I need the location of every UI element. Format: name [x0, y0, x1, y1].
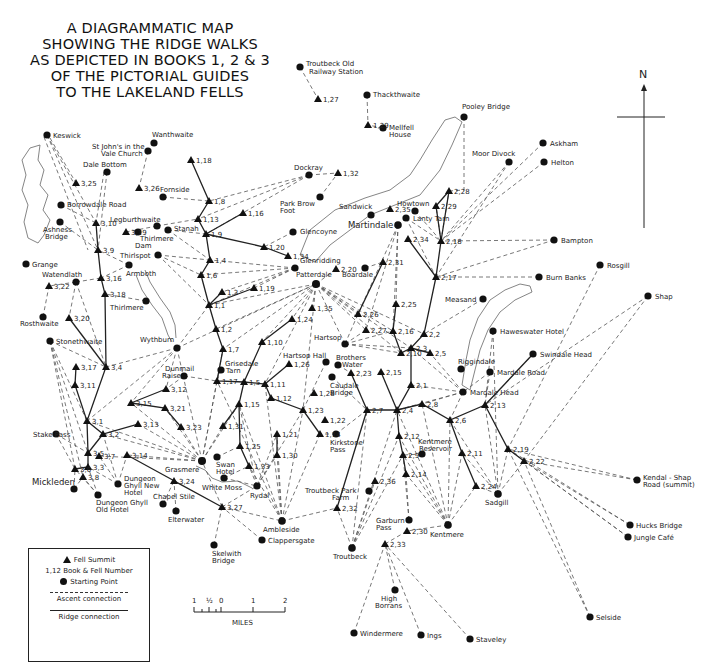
fell-summit-triangle-icon[interactable]: [310, 389, 318, 396]
start-burn-banks[interactable]: [535, 273, 542, 280]
start-caudale-bridge[interactable]: [328, 373, 335, 380]
fell-summit-triangle-icon[interactable]: [404, 235, 412, 242]
fell-summit-triangle-icon[interactable]: [72, 363, 80, 370]
start-brothers-water[interactable]: [334, 361, 341, 368]
fell-summit-triangle-icon[interactable]: [219, 345, 227, 352]
start-grisedale-tarn[interactable]: [217, 366, 224, 373]
fell-summit-triangle-icon[interactable]: [333, 504, 341, 511]
start-skelwith-bridge[interactable]: [210, 541, 217, 548]
start-haweswater-hotel[interactable]: [489, 327, 496, 334]
fell-summit-triangle-icon[interactable]: [94, 246, 102, 253]
start-park-brow-foot[interactable]: [316, 193, 323, 200]
start-swan-hotel[interactable]: [213, 453, 220, 460]
start-swindale-head[interactable]: [529, 350, 536, 357]
fell-summit-triangle-icon[interactable]: [381, 540, 389, 547]
fell-summit-triangle-icon[interactable]: [123, 451, 131, 458]
start-borrowdale-road[interactable]: [57, 201, 64, 208]
fell-summit-triangle-icon[interactable]: [334, 169, 342, 176]
start-st-johns[interactable]: [144, 147, 151, 154]
fell-summit-triangle-icon[interactable]: [395, 432, 403, 439]
fell-summit-triangle-icon[interactable]: [273, 451, 281, 458]
fell-summit-triangle-icon[interactable]: [389, 327, 397, 334]
start-ambleside[interactable]: [278, 517, 286, 525]
start-high-borrans[interactable]: [391, 586, 398, 593]
fell-summit-triangle-icon[interactable]: [72, 179, 80, 186]
start-mardale-head[interactable]: [459, 388, 466, 395]
fell-summit-triangle-icon[interactable]: [288, 315, 296, 322]
fell-summit-triangle-icon[interactable]: [364, 121, 372, 128]
fell-summit-triangle-icon[interactable]: [377, 368, 385, 375]
start-sandwick[interactable]: [367, 211, 374, 218]
start-wanthwaite[interactable]: [150, 139, 157, 146]
fell-summit-triangle-icon[interactable]: [420, 330, 428, 337]
fell-summit-triangle-icon[interactable]: [418, 400, 426, 407]
start-kendal-shap-road[interactable]: [633, 476, 640, 483]
start-helton[interactable]: [540, 158, 547, 165]
start-grange[interactable]: [22, 260, 29, 267]
start-hartsop[interactable]: [341, 340, 348, 347]
start-selside[interactable]: [586, 613, 593, 620]
fell-summit-triangle-icon[interactable]: [371, 477, 379, 484]
fell-summit-triangle-icon[interactable]: [285, 360, 293, 367]
fell-summit-triangle-icon[interactable]: [101, 290, 109, 297]
start-keswick[interactable]: [43, 131, 50, 138]
fell-summit-triangle-icon[interactable]: [308, 304, 316, 311]
start-shap[interactable]: [644, 292, 651, 299]
fell-summit-triangle-icon[interactable]: [194, 215, 202, 222]
start-rydal[interactable]: [253, 482, 260, 489]
start-ashness-bridge[interactable]: [56, 218, 63, 225]
fell-summit-triangle-icon[interactable]: [236, 442, 244, 449]
start-troutbeck-park[interactable]: [365, 487, 372, 494]
start-grasmere[interactable]: [198, 457, 206, 465]
start-elterwater[interactable]: [172, 507, 179, 514]
start-dockray[interactable]: [305, 171, 312, 178]
start-howtown[interactable]: [411, 207, 418, 214]
start-thirlspot[interactable]: [154, 251, 161, 258]
start-wythburn[interactable]: [173, 344, 180, 351]
start-ings[interactable]: [417, 631, 424, 638]
fell-summit-triangle-icon[interactable]: [250, 284, 258, 291]
fell-summit-triangle-icon[interactable]: [187, 156, 195, 163]
start-pooley-bridge[interactable]: [460, 113, 467, 120]
start-stonethwaite[interactable]: [46, 337, 53, 344]
fell-summit-triangle-icon[interactable]: [273, 430, 281, 437]
fell-summit-triangle-icon[interactable]: [97, 274, 105, 281]
fell-summit-triangle-icon[interactable]: [218, 503, 226, 510]
start-martindale[interactable]: [394, 221, 402, 229]
start-dungeon-ghyll-old[interactable]: [94, 491, 101, 498]
fell-summit-triangle-icon[interactable]: [402, 470, 410, 477]
fell-summit-triangle-icon[interactable]: [239, 209, 247, 216]
start-dale-bottom[interactable]: [103, 168, 110, 175]
start-lanty-tarn[interactable]: [402, 214, 409, 221]
fell-summit-triangle-icon[interactable]: [79, 473, 87, 480]
fell-summit-triangle-icon[interactable]: [392, 300, 400, 307]
start-measand[interactable]: [479, 295, 486, 302]
fell-summit-triangle-icon[interactable]: [135, 184, 143, 191]
fell-summit-triangle-icon[interactable]: [235, 400, 243, 407]
start-watendlath[interactable]: [72, 278, 79, 285]
start-garburn-pass[interactable]: [405, 516, 412, 523]
fell-summit-triangle-icon[interactable]: [212, 325, 220, 332]
start-windermere[interactable]: [350, 629, 357, 636]
start-riggindale[interactable]: [457, 365, 464, 372]
fell-summit-triangle-icon[interactable]: [218, 288, 226, 295]
start-sadgill[interactable]: [494, 490, 502, 498]
start-rosgill[interactable]: [596, 261, 603, 268]
fell-summit-triangle-icon[interactable]: [267, 394, 275, 401]
start-askham[interactable]: [539, 139, 546, 146]
fell-summit-triangle-icon[interactable]: [407, 381, 415, 388]
fell-summit-triangle-icon[interactable]: [472, 482, 480, 489]
fell-summit-triangle-icon[interactable]: [71, 381, 79, 388]
start-clappersgate[interactable]: [258, 536, 265, 543]
start-mardale-road[interactable]: [486, 368, 493, 375]
fell-summit-triangle-icon[interactable]: [162, 385, 170, 392]
start-glencoyne[interactable]: [289, 228, 296, 235]
fell-summit-triangle-icon[interactable]: [347, 369, 355, 376]
fell-summit-triangle-icon[interactable]: [332, 265, 340, 272]
start-chapel-stile[interactable]: [159, 500, 166, 507]
start-bampton[interactable]: [550, 236, 557, 243]
start-armboth[interactable]: [125, 261, 132, 268]
start-moor-divock[interactable]: [505, 158, 512, 165]
fell-summit-triangle-icon[interactable]: [504, 445, 512, 452]
fell-summit-triangle-icon[interactable]: [65, 314, 73, 321]
